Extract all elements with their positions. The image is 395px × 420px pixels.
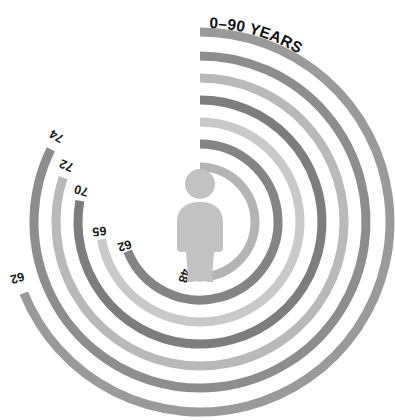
value-label-2: 62	[116, 237, 133, 254]
value-label-6: 74	[47, 126, 66, 145]
value-label-5: 72	[57, 156, 75, 174]
person-figure-icon	[177, 169, 223, 282]
value-label-4: 70	[73, 182, 90, 199]
value-label-3: 65	[92, 224, 107, 239]
value-label-7: 62	[9, 269, 26, 286]
radial-chart-root: 48626570727462 0–90 YEARS	[0, 0, 395, 420]
radial-bar-chart: 48626570727462 0–90 YEARS	[0, 0, 395, 420]
